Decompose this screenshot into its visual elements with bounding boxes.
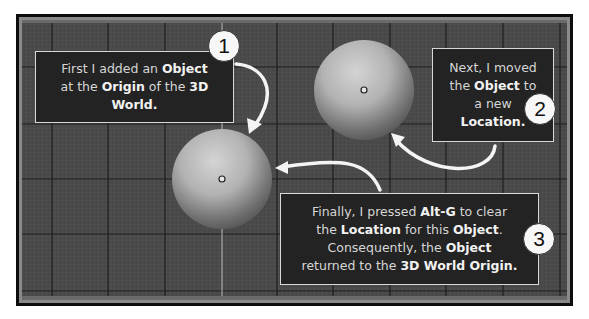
callout-3-line-2: the Location for this Object. <box>281 221 538 239</box>
callout-step-1: First I added an Object at the Origin of… <box>35 51 234 123</box>
callout-step-3: Finally, I pressed Alt-G to clear the Lo… <box>280 193 539 285</box>
callout-3-line-4: returned to the 3D World Origin. <box>281 257 538 275</box>
callout-1-line-3: World. <box>36 96 233 114</box>
arrow-2 <box>396 140 495 169</box>
callout-3-line-1: Finally, I pressed Alt-G to clear <box>281 203 538 221</box>
callout-2-line-1: Next, I moved <box>433 59 553 77</box>
arrow-3-head-icon <box>275 161 288 174</box>
arrow-3 <box>282 162 380 190</box>
step-badge-2: 2 <box>524 93 556 125</box>
callout-1-line-1: First I added an Object <box>36 60 233 78</box>
step-badge-3: 3 <box>523 223 555 255</box>
callout-2-line-2: the Object to <box>433 77 553 95</box>
step-badge-1: 1 <box>208 30 240 62</box>
callout-3-line-3: Consequently, the Object <box>281 239 538 257</box>
callout-1-line-2: at the Origin of the 3D <box>36 78 233 96</box>
arrow-1 <box>236 64 267 124</box>
